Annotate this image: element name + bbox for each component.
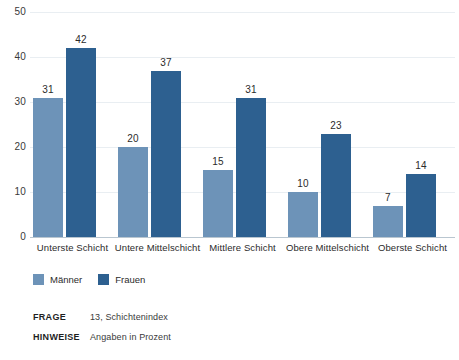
bar-chart-figure: 3142203715311023714 MännerFrauen FRAGE13… [0, 0, 459, 360]
footnote-row: FRAGE13, Schichtenindex [33, 312, 433, 322]
bar-frauen [66, 48, 96, 237]
footnote-key: HINWEISE [33, 332, 90, 342]
bar-frauen [236, 98, 266, 238]
bar-frauen [406, 174, 436, 237]
bar-value-label: 31 [33, 84, 63, 95]
footnote-row: HINWEISEAngaben in Prozent [33, 332, 433, 342]
y-axis-tick-30: 30 [2, 96, 26, 107]
legend-entry-maenner: Männer [33, 274, 82, 285]
bar-frauen [321, 134, 351, 238]
bar-maenner [33, 98, 63, 238]
bar-frauen [151, 71, 181, 238]
bar-group: 714 [370, 12, 455, 237]
bar-group: 2037 [115, 12, 200, 237]
bar-value-label: 20 [118, 133, 148, 144]
footnote-key: FRAGE [33, 312, 90, 322]
bar-maenner [288, 192, 318, 237]
legend-label: Frauen [115, 274, 145, 285]
bar-value-label: 37 [151, 57, 181, 68]
legend-swatch-icon [98, 274, 109, 285]
bar-value-label: 15 [203, 156, 233, 167]
bar-maenner [118, 147, 148, 237]
footnote-value: 13, Schichtenindex [90, 312, 168, 322]
chart-legend: MännerFrauen [33, 274, 145, 285]
bar-value-label: 31 [236, 84, 266, 95]
gridline-0 [30, 237, 455, 238]
bar-maenner [203, 170, 233, 238]
y-axis-tick-40: 40 [2, 51, 26, 62]
legend-entry-frauen: Frauen [98, 274, 145, 285]
y-axis-tick-0: 0 [2, 231, 26, 242]
footnote-value: Angaben in Prozent [90, 332, 171, 342]
bar-group: 1023 [285, 12, 370, 237]
bar-value-label: 23 [321, 120, 351, 131]
legend-swatch-icon [33, 274, 44, 285]
y-axis-tick-50: 50 [2, 6, 26, 17]
bar-value-label: 10 [288, 178, 318, 189]
x-axis-category-label: Oberste Schicht [358, 242, 459, 253]
y-axis-tick-20: 20 [2, 141, 26, 152]
bar-value-label: 42 [66, 34, 96, 45]
chart-bars-layer: 3142203715311023714 [30, 12, 455, 237]
bar-value-label: 7 [373, 192, 403, 203]
bar-group: 3142 [30, 12, 115, 237]
chart-footnotes: FRAGE13, SchichtenindexHINWEISEAngaben i… [33, 312, 433, 352]
legend-label: Männer [50, 274, 82, 285]
bar-group: 1531 [200, 12, 285, 237]
y-axis-tick-10: 10 [2, 186, 26, 197]
bar-maenner [373, 206, 403, 238]
bar-value-label: 14 [406, 160, 436, 171]
